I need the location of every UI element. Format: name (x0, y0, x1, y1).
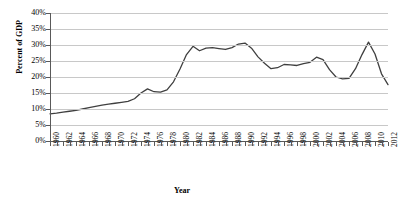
gridline (50, 77, 388, 78)
x-tick-mark (141, 142, 142, 146)
gridline (50, 45, 388, 46)
y-tick-label: 5% (20, 121, 46, 129)
x-tick-mark (317, 142, 318, 146)
x-tick-mark (57, 142, 58, 146)
x-tick-mark (284, 142, 285, 146)
x-tick-mark (115, 142, 116, 146)
x-tick-mark (245, 142, 246, 146)
x-tick-mark (369, 142, 370, 146)
y-tick-label: 0% (20, 137, 46, 145)
x-tick-mark (258, 142, 259, 146)
y-tick-mark (46, 77, 50, 78)
x-tick-mark (167, 142, 168, 146)
x-tick-mark (336, 142, 337, 146)
x-tick-mark (109, 142, 110, 146)
x-tick-mark (102, 142, 103, 146)
x-tick-mark (362, 142, 363, 146)
x-tick-mark (297, 142, 298, 146)
x-tick-mark (76, 142, 77, 146)
x-tick-mark (187, 142, 188, 146)
y-tick-mark (46, 61, 50, 62)
y-tick-mark (46, 93, 50, 94)
gridline (50, 13, 388, 14)
x-tick-mark (213, 142, 214, 146)
y-axis-tick-labels: 40%35%30%25%20%15%10%5%0% (18, 0, 46, 207)
y-tick-label: 40% (20, 9, 46, 17)
plot-area (50, 13, 388, 141)
x-tick-mark (161, 142, 162, 146)
x-tick-mark (375, 142, 376, 146)
x-tick-mark (83, 142, 84, 146)
x-tick-mark (278, 142, 279, 146)
x-tick-mark (135, 142, 136, 146)
gridline (50, 61, 388, 62)
x-tick-mark (310, 142, 311, 146)
x-tick-mark (226, 142, 227, 146)
x-tick-mark (271, 142, 272, 146)
x-tick-mark (356, 142, 357, 146)
gridline (50, 125, 388, 126)
gridline (50, 93, 388, 94)
y-tick-mark (46, 125, 50, 126)
y-tick-mark (46, 45, 50, 46)
y-tick-mark (46, 109, 50, 110)
x-tick-mark (330, 142, 331, 146)
x-tick-mark (174, 142, 175, 146)
y-axis-line (50, 13, 51, 142)
x-tick-mark (349, 142, 350, 146)
x-tick-mark (200, 142, 201, 146)
x-tick-mark (291, 142, 292, 146)
chart-container: Percent of GDP 40%35%30%25%20%15%10%5%0%… (0, 0, 402, 207)
y-tick-label: 15% (20, 89, 46, 97)
x-tick-mark (128, 142, 129, 146)
x-tick-mark (232, 142, 233, 146)
y-tick-label: 35% (20, 25, 46, 33)
x-tick-mark (206, 142, 207, 146)
y-tick-label: 25% (20, 57, 46, 65)
x-tick-mark (252, 142, 253, 146)
x-tick-mark (193, 142, 194, 146)
x-tick-mark (265, 142, 266, 146)
y-tick-mark (46, 29, 50, 30)
gridline (50, 109, 388, 110)
x-tick-mark (343, 142, 344, 146)
x-tick-mark (382, 142, 383, 146)
x-tick-mark (122, 142, 123, 146)
x-tick-mark (89, 142, 90, 146)
y-tick-label: 20% (20, 73, 46, 81)
gridline (50, 29, 388, 30)
x-tick-mark (50, 142, 51, 146)
x-tick-mark (63, 142, 64, 146)
x-tick-mark (148, 142, 149, 146)
x-tick-mark (239, 142, 240, 146)
x-tick-mark (219, 142, 220, 146)
x-tick-mark (70, 142, 71, 146)
x-tick-mark (304, 142, 305, 146)
x-tick-label: 2012 (391, 117, 399, 147)
x-tick-mark (180, 142, 181, 146)
x-tick-mark (323, 142, 324, 146)
x-tick-mark (96, 142, 97, 146)
x-axis-title: Year (174, 186, 190, 195)
x-tick-mark (388, 142, 389, 146)
y-tick-label: 10% (20, 105, 46, 113)
y-tick-label: 30% (20, 41, 46, 49)
y-tick-mark (46, 13, 50, 14)
x-tick-mark (154, 142, 155, 146)
